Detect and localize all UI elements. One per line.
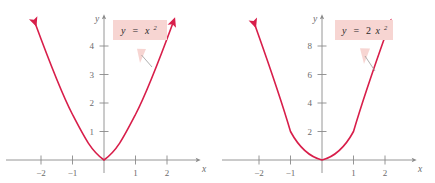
- y-axis-right: 2 4 6 8 y: [308, 14, 327, 173]
- x-tick-label: 1: [133, 168, 138, 178]
- callout-pointer-line: [142, 55, 153, 67]
- callout-coefficient: 2: [366, 25, 371, 36]
- x-tick-label: 2: [165, 168, 170, 178]
- figure-two-parabolas: −2 −1 1 2 x 1 2 3 4 y: [0, 0, 435, 183]
- y-tick-label: 3: [90, 70, 95, 80]
- x-tick-label: −2: [254, 168, 264, 178]
- chart-panel-right: −2 −1 1 2 x 2 4 6 8 y: [218, 0, 435, 183]
- callout-equation: y = x 2: [120, 20, 158, 37]
- x-axis-label: x: [417, 164, 423, 174]
- y-tick-label: 2: [308, 127, 313, 137]
- x-axis-label: x: [201, 164, 207, 174]
- y-axis-label: y: [94, 14, 100, 24]
- x-tick-label: −1: [286, 168, 296, 178]
- callout-lhs: y: [341, 25, 347, 36]
- callout-base: x: [375, 25, 381, 36]
- x-tick-label: 1: [351, 168, 356, 178]
- x-tick-label: −1: [68, 168, 78, 178]
- callout-pointer-line: [365, 56, 375, 71]
- callout-lhs: y: [120, 25, 126, 36]
- chart-panel-left: −2 −1 1 2 x 1 2 3 4 y: [0, 0, 217, 183]
- y-tick-label: 8: [308, 41, 313, 51]
- y-axis-label: y: [312, 14, 318, 24]
- y-tick-label: 2: [90, 98, 95, 108]
- y-tick-label: 6: [308, 70, 313, 80]
- y-tick-label: 4: [308, 98, 313, 108]
- callout-base: x: [144, 25, 150, 36]
- x-tick-label: 2: [383, 168, 388, 178]
- y-tick-label: 4: [90, 41, 95, 51]
- callout-right: y = 2 x 2: [335, 20, 393, 71]
- callout-operator: =: [353, 25, 359, 36]
- x-tick-label: −2: [36, 168, 46, 178]
- y-tick-label: 1: [90, 127, 95, 137]
- callout-tail: [137, 49, 146, 63]
- callout-operator: =: [132, 25, 138, 36]
